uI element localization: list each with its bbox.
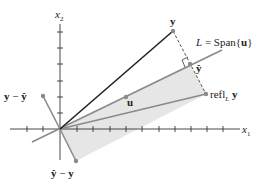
label-yhat-minus-y: ŷ − y <box>51 167 74 179</box>
label-u: u <box>127 96 133 108</box>
y-minus-yhat-vector <box>43 96 60 129</box>
shaded-region <box>60 64 206 161</box>
label-y-minus-yhat: y − ŷ <box>4 90 27 102</box>
x2-axis-label: x2 <box>54 8 64 23</box>
point-y <box>171 29 175 33</box>
point-yhat <box>188 62 192 66</box>
x2-axis <box>57 24 63 160</box>
label-y: y <box>170 15 176 27</box>
label-refl-y: reflL y <box>210 88 238 103</box>
point-yhat-minus-y <box>74 159 78 163</box>
label-L-span-u: L = Span{u} <box>195 36 253 48</box>
label-yhat: ŷ <box>196 62 202 74</box>
point-y-minus-yhat <box>41 94 45 98</box>
reflection-diagram: x1 x2 y L = Span{u} ŷ reflL y u y − ŷ ŷ … <box>0 0 261 182</box>
x1-axis-label: x1 <box>241 123 251 138</box>
point-refl <box>204 92 208 96</box>
